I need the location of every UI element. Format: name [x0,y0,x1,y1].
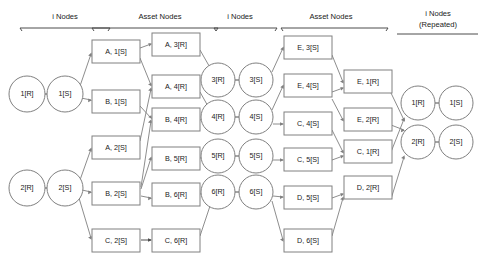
node-label: B, 1[S] [105,97,127,106]
edge-e4s-to-e2r [332,99,343,120]
node-b4r[interactable]: B, 4[R] [152,108,200,131]
node-label: B, 5[R] [165,154,187,163]
node-d2r[interactable]: D, 2[R] [344,176,392,199]
node-1s-left[interactable]: 1[S] [47,76,83,112]
edge-1s-to-a1s [80,54,91,86]
header-label-asset-nodes-right: Asset Nodes [309,12,352,21]
header-label-asset-nodes-left: Asset Nodes [138,12,181,21]
arrow-1s-to-b1s [88,99,92,103]
edge-3s-to-e3s [272,48,283,72]
node-2r-left[interactable]: 2[R] [9,170,45,206]
node-2s-left[interactable]: 2[S] [47,170,83,206]
node-label: 4[S] [250,112,263,121]
header-group-i-nodes-repeated: i Nodes (Repeated) [397,9,478,34]
node-label: 4[R] [211,112,224,121]
header-label-i-nodes-mid: i Nodes [227,12,253,21]
arrow-e4s-to-e1r [340,87,344,91]
node-6s[interactable]: 6[S] [239,175,273,209]
node-label: 1[R] [20,89,33,98]
node-label: E, 4[S] [297,81,319,90]
node-label: 2[R] [20,183,33,192]
node-b6r[interactable]: B, 6[R] [152,183,200,206]
node-label: 6[S] [250,187,263,196]
node-1r-repeated[interactable]: 1[R] [401,86,435,120]
node-a2s[interactable]: A, 2[S] [92,136,140,159]
node-label: B, 2[S] [105,189,127,198]
node-label: C, 2[S] [105,236,127,245]
arrow-a2s-to-a4r [148,87,152,91]
node-3s[interactable]: 3[S] [239,63,273,97]
header-label-i-nodes-left: i Nodes [52,12,78,21]
edge-b2s-to-b5r [141,158,151,189]
edge-6s-to-d6s [272,201,283,240]
node-label: C, 4[S] [297,119,319,128]
header-group-asset-nodes-left: Asset Nodes [92,12,218,31]
edge-e3s-to-e1r [332,55,343,82]
node-c2s[interactable]: C, 2[S] [92,229,140,252]
arrow-b2s-to-b6r [148,197,152,201]
arrow-a1s-to-a4r [148,83,152,87]
node-c5s[interactable]: C, 5[S] [284,148,332,171]
edge-a1s-to-a4r [140,58,151,85]
diagram-svg: i Nodes Asset Nodes i Nodes Asset Nodes … [0,0,484,270]
arrow-2s-to-c2s [88,236,92,240]
arrow-a1s-to-a3r [148,43,152,47]
node-b2s[interactable]: B, 2[S] [92,182,140,205]
node-label: E, 3[S] [297,43,319,52]
node-label: 5[S] [250,151,263,160]
node-a4r[interactable]: A, 4[R] [152,75,200,98]
node-b5r[interactable]: B, 5[R] [152,147,200,170]
arrow-4s-to-c4s [280,122,284,125]
arrow-2s-to-a2s [88,148,92,152]
node-b1s[interactable]: B, 1[S] [92,90,140,113]
node-4s[interactable]: 4[S] [239,100,273,134]
arrow-b2s-to-b4r [148,119,152,123]
arrow-6s-to-d5s [280,196,284,200]
arrow-5s-to-c5s [280,158,284,161]
node-e3s[interactable]: E, 3[S] [284,36,332,59]
node-label: E, 1[R] [357,77,379,86]
node-label: D, 2[R] [357,183,379,192]
node-2s-repeated[interactable]: 2[S] [439,125,473,159]
arrow-6s-to-d6s [280,238,284,242]
node-e1r[interactable]: E, 1[R] [344,70,392,93]
node-e2r[interactable]: E, 2[R] [344,108,392,131]
node-6r[interactable]: 6[R] [201,175,235,209]
node-label: 3[R] [211,75,224,84]
header-label-i-nodes-repeated-line2: (Repeated) [419,20,457,29]
node-5s[interactable]: 5[S] [239,139,273,173]
node-label: A, 3[R] [165,40,187,49]
node-d6s[interactable]: D, 6[S] [284,229,332,252]
diagram-canvas: i Nodes Asset Nodes i Nodes Asset Nodes … [0,0,484,270]
node-c1r[interactable]: C, 1[R] [344,140,392,163]
node-3r[interactable]: 3[R] [201,63,235,97]
header-label-i-nodes-repeated-line1: i Nodes [425,9,451,18]
node-a1s[interactable]: A, 1[S] [92,40,140,63]
node-label: 1[S] [59,89,72,98]
node-c6r[interactable]: C, 6[R] [152,229,200,252]
node-label: 6[R] [211,187,224,196]
edge-2s-to-a2s [80,149,91,180]
node-4r[interactable]: 4[R] [201,100,235,134]
node-e4s[interactable]: E, 4[S] [284,74,332,97]
node-5r[interactable]: 5[R] [201,139,235,173]
node-label: A, 2[S] [105,143,127,152]
node-label: 1[S] [450,98,463,107]
node-label: A, 1[S] [105,47,127,56]
arrow-d6s-to-d2r [340,196,344,200]
node-label: 2[S] [59,183,72,192]
edge-d6s-to-d2r [332,198,343,236]
node-d5s[interactable]: D, 5[S] [284,186,332,209]
node-c4s[interactable]: C, 4[S] [284,112,332,135]
node-label: 3[S] [250,75,263,84]
node-1r-left[interactable]: 1[R] [9,76,45,112]
node-label: D, 6[S] [297,236,319,245]
node-label: A, 4[R] [165,82,187,91]
node-label: C, 1[R] [357,147,379,156]
node-1s-repeated[interactable]: 1[S] [439,86,473,120]
node-a3r[interactable]: A, 3[R] [152,33,200,56]
node-label: D, 5[S] [297,193,319,202]
edge-4s-to-e4s [272,86,283,110]
node-2r-repeated[interactable]: 2[R] [401,125,435,159]
edge-c6r-to-6r [200,203,211,236]
